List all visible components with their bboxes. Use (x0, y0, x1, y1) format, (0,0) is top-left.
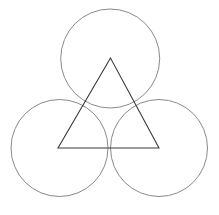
three-circles-triangle-diagram (0, 0, 219, 215)
circles-group (11, 9, 208, 197)
equilateral-triangle (58, 58, 159, 148)
